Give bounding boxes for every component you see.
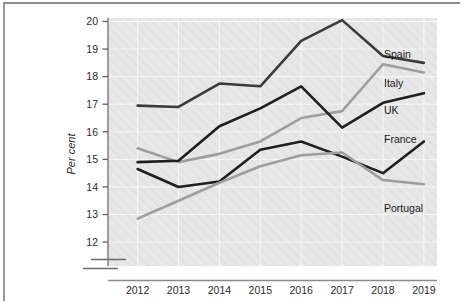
y-tick-label: 19 [86,43,98,55]
y-tick-label: 16 [86,126,98,138]
y-tick-label: 20 [86,15,98,27]
x-tick-label: 2015 [249,284,273,296]
y-axis-label: Per cent [65,133,77,175]
x-tick-label: 2014 [208,284,232,296]
x-tick-label: 2018 [371,284,395,296]
x-axis-tick-labels: 2012 2013 2014 2015 2016 2017 2018 2019 [126,284,436,296]
y-tick-label: 15 [86,153,98,165]
y-tick-label: 13 [86,208,98,220]
y-tick-label: 18 [86,70,98,82]
y-tick-label: 12 [86,236,98,248]
chart-figure: 20 19 18 17 16 15 14 13 12 Per cent 2 [5,4,460,301]
figure-caption: The chart suggests that Spain's labour i… [31,300,456,301]
x-tick-label: 2019 [412,284,436,296]
series-label-portugal: Portugal [384,202,423,214]
x-tick-label: 2013 [167,284,191,296]
x-tick-label: 2012 [126,284,150,296]
series-label-italy: Italy [384,77,404,89]
y-tick-label: 14 [86,181,98,193]
series-label-spain: Spain [384,48,411,60]
y-tick-label: 17 [86,98,98,110]
line-chart: 20 19 18 17 16 15 14 13 12 Per cent 2 [5,4,460,301]
series-label-france: France [384,133,417,145]
figure-frame: 20 19 18 17 16 15 14 13 12 Per cent 2 [3,2,460,301]
y-axis-ticks [103,22,109,243]
y-axis-tick-labels: 20 19 18 17 16 15 14 13 12 [86,15,98,248]
x-tick-label: 2017 [330,284,354,296]
series-label-uk: UK [384,104,399,116]
x-tick-label: 2016 [290,284,314,296]
